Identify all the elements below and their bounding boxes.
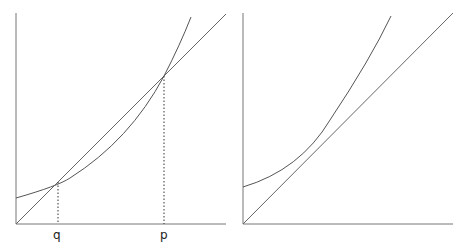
left-straight-line	[16, 14, 226, 224]
left-convex-curve	[16, 17, 191, 198]
right-convex-curve	[243, 16, 391, 187]
right-straight-line	[243, 13, 453, 224]
right-panel	[243, 13, 453, 224]
diagram-canvas	[0, 0, 467, 247]
left-panel	[16, 13, 226, 224]
p-label: p	[160, 228, 168, 242]
q-label: q	[53, 228, 61, 242]
